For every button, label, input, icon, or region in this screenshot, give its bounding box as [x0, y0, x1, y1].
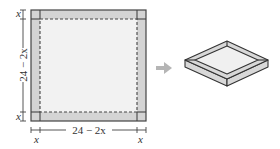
bottom-length-label: 24 − 2x — [72, 124, 106, 136]
open-box — [185, 41, 268, 86]
corner-label-right: x — [137, 133, 143, 145]
corner-label-left: x — [33, 133, 39, 145]
arrow-icon — [156, 62, 172, 74]
corner-label-top: x — [15, 7, 21, 19]
diagram-canvas: x x 24 − 2x 24 − 2x x x — [0, 0, 280, 149]
fold-line — [40, 19, 137, 112]
side-length-label: 24 − 2x — [17, 48, 29, 82]
flat-sheet — [31, 10, 146, 121]
corner-label-bottom: x — [15, 110, 21, 122]
